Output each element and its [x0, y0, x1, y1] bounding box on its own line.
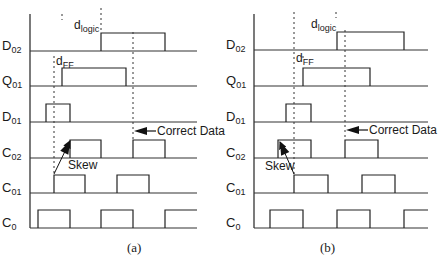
arrowhead-icon	[60, 141, 70, 155]
d-logic-label: dlogic	[74, 18, 100, 34]
signal-c02: C02	[226, 140, 428, 162]
signal-c0: C0	[226, 210, 428, 232]
signal-label: C0	[2, 215, 16, 232]
d-logic-label: dlogic	[311, 17, 337, 33]
signal-pulse	[294, 175, 328, 193]
signal-pulse	[101, 210, 133, 228]
signal-pulse	[345, 140, 378, 158]
signal-pulse	[337, 32, 404, 50]
signal-pulse	[362, 175, 395, 193]
signal-pulse	[38, 210, 70, 228]
signal-pulse	[133, 140, 165, 158]
timing-diagram-figure: D02Q01D01C02C01C0dlogicdFFCorrect DataSk…	[0, 0, 446, 264]
skew-label: Skew	[265, 159, 295, 173]
correct-data-label: Correct Data	[157, 124, 225, 138]
signal-pulse	[337, 210, 370, 228]
signal-label: C01	[2, 180, 21, 197]
signal-d02: D02	[226, 32, 428, 54]
signal-d02: D02	[2, 33, 197, 55]
arrowhead-icon	[134, 127, 147, 135]
signal-pulse	[404, 210, 428, 228]
signal-label: C01	[226, 180, 245, 197]
signal-c0: C0	[2, 210, 197, 232]
correct-data-annotation: Correct Data	[134, 124, 225, 138]
skew-label: Skew	[68, 158, 98, 172]
signal-label: C02	[2, 145, 21, 162]
caption-panel-a: (a)	[127, 240, 141, 255]
signal-label: Q01	[2, 73, 22, 90]
signal-pulse	[70, 140, 101, 158]
signal-label: D01	[2, 109, 21, 126]
signal-pulse	[286, 104, 311, 122]
signal-c02: C02	[2, 140, 197, 162]
signal-pulse	[117, 175, 149, 193]
signal-pulse	[303, 68, 370, 86]
timing-panel-a: D02Q01D01C02C01C0dlogicdFFCorrect DataSk…	[2, 8, 225, 232]
arrowhead-icon	[280, 142, 289, 156]
signal-label: D01	[226, 109, 245, 126]
signal-c01: C01	[226, 175, 428, 197]
d-ff-label: dFF	[296, 51, 314, 67]
arrowhead-icon	[346, 126, 359, 134]
signal-label: D02	[226, 37, 245, 54]
d-ff-label: dFF	[56, 54, 74, 70]
correct-data-label: Correct Data	[369, 123, 437, 137]
signal-pulse	[270, 210, 303, 228]
correct-data-annotation: Correct Data	[346, 123, 437, 137]
signal-q01: Q01	[226, 68, 428, 90]
signal-label: C0	[226, 215, 240, 232]
signal-label: C02	[226, 145, 245, 162]
signal-q01: Q01	[2, 68, 197, 90]
signal-label: Q01	[226, 73, 246, 90]
signal-c01: C01	[2, 175, 197, 197]
signal-pulse	[165, 210, 197, 228]
caption-panel-b: (b)	[320, 240, 335, 255]
timing-panel-b: D02Q01D01C02C01C0dlogicdFFCorrect DataSk…	[226, 12, 437, 232]
signal-pulse	[46, 104, 70, 122]
signal-d01: D01	[2, 104, 197, 126]
signal-pulse	[62, 68, 126, 86]
signal-label: D02	[2, 38, 21, 55]
signal-pulse	[54, 175, 85, 193]
